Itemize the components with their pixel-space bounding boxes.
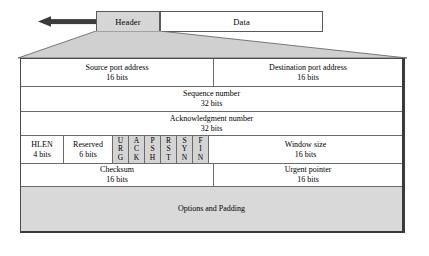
- reserved-label: Reserved: [73, 140, 103, 150]
- flag-syn-letter-3: N: [182, 154, 187, 163]
- hlen-bits: 4 bits: [33, 150, 51, 160]
- sequence-number-cell: Sequence number 32 bits: [21, 87, 402, 111]
- table-row: Sequence number 32 bits: [21, 87, 402, 112]
- options-padding-label: Options and Padding: [178, 204, 245, 214]
- window-size-label: Window size: [285, 140, 327, 150]
- flag-urg-cell: U R G: [113, 136, 129, 163]
- segment-data-label: Data: [233, 17, 250, 27]
- checksum-cell: Checksum 16 bits: [21, 164, 214, 186]
- flag-psh-letter-3: H: [150, 154, 155, 163]
- window-size-cell: Window size 16 bits: [209, 136, 402, 163]
- reserved-bits: 6 bits: [79, 150, 97, 160]
- flag-rst-cell: R S T: [161, 136, 177, 163]
- table-row: Acknowledgment number 32 bits: [21, 112, 402, 136]
- table-row: Checksum 16 bits Urgent pointer 16 bits: [21, 164, 402, 187]
- tcp-header-table: Source port address 16 bits Destination …: [20, 58, 405, 233]
- sequence-number-label: Sequence number: [183, 89, 240, 99]
- urgent-pointer-label: Urgent pointer: [285, 165, 332, 175]
- window-size-bits: 16 bits: [295, 150, 317, 160]
- left-arrow-icon: [38, 16, 96, 27]
- reserved-cell: Reserved 6 bits: [64, 136, 113, 163]
- flag-syn-cell: S Y N: [177, 136, 193, 163]
- flag-ack-cell: A C K: [129, 136, 145, 163]
- urgent-pointer-cell: Urgent pointer 16 bits: [214, 164, 402, 186]
- hlen-label: HLEN: [31, 140, 52, 150]
- table-row: HLEN 4 bits Reserved 6 bits U R G A C K …: [21, 136, 402, 164]
- segment-data-box: Data: [160, 11, 323, 32]
- flag-fin-cell: F I N: [193, 136, 209, 163]
- tcp-segment-diagram: Header Data Source port address 16 bits …: [0, 0, 429, 256]
- options-padding-cell: Options and Padding: [21, 187, 402, 231]
- acknowledgment-number-label: Acknowledgment number: [170, 114, 253, 124]
- table-row: Options and Padding: [21, 187, 402, 231]
- flag-urg-letter-3: G: [118, 154, 123, 163]
- segment-header-box: Header: [96, 11, 160, 32]
- segment-header-label: Header: [115, 17, 140, 27]
- sequence-number-bits: 32 bits: [201, 99, 223, 109]
- urgent-pointer-bits: 16 bits: [297, 175, 319, 185]
- destination-port-cell: Destination port address 16 bits: [214, 59, 402, 86]
- source-port-cell: Source port address 16 bits: [21, 59, 214, 86]
- flag-psh-cell: P S H: [145, 136, 161, 163]
- source-port-label: Source port address: [85, 63, 148, 73]
- flag-rst-letter-3: T: [166, 154, 171, 163]
- destination-port-bits: 16 bits: [297, 73, 319, 83]
- hlen-cell: HLEN 4 bits: [21, 136, 64, 163]
- checksum-bits: 16 bits: [106, 175, 128, 185]
- table-row: Source port address 16 bits Destination …: [21, 59, 402, 87]
- checksum-label: Checksum: [100, 165, 134, 175]
- acknowledgment-number-bits: 32 bits: [201, 124, 223, 134]
- flag-fin-letter-3: N: [198, 154, 203, 163]
- acknowledgment-number-cell: Acknowledgment number 32 bits: [21, 112, 402, 135]
- flag-ack-letter-3: K: [134, 154, 139, 163]
- expansion-connector: [18, 31, 407, 60]
- destination-port-label: Destination port address: [269, 63, 347, 73]
- source-port-bits: 16 bits: [106, 73, 128, 83]
